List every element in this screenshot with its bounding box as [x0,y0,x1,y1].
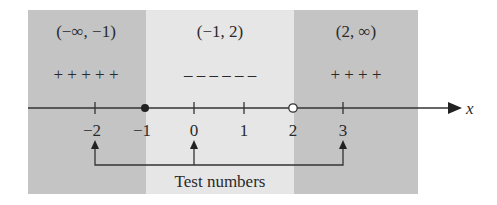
tick-label-3: 3 [339,121,348,140]
tick-label-0: 0 [190,121,199,140]
axis-label: x [465,99,474,118]
interval-label-2: (−1, 2) [197,22,243,41]
tick-label-neg1: −1 [133,121,151,140]
test-numbers-label: Test numbers [175,172,266,191]
tick-label-1: 1 [240,121,249,140]
interval-label-3: (2, ∞) [336,22,376,41]
sign-chart: (−∞, −1) (−1, 2) (2, ∞) + + + + + – – – … [0,0,497,205]
open-dot-2 [289,104,297,112]
filled-dot-neg1 [141,104,149,112]
interval-label-1: (−∞, −1) [56,22,116,41]
axis-arrow-icon [448,102,462,114]
sign-row-1: + + + + + [54,65,119,84]
tick-label-neg2: −2 [83,121,101,140]
sign-row-3: + + + + [330,65,381,84]
sign-row-2: – – – – – – [183,65,257,84]
tick-label-2: 2 [289,121,298,140]
